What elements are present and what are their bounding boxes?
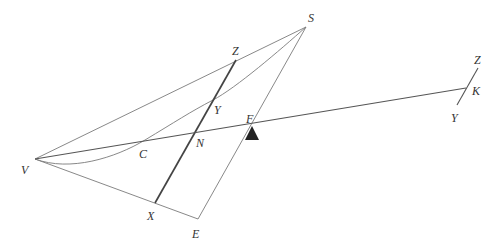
label-z: Z: [232, 44, 239, 58]
label-k: K: [471, 84, 481, 98]
label-f: F: [245, 112, 254, 126]
label-v: V: [21, 163, 30, 177]
label-z-right: Z: [474, 53, 481, 67]
label-y-right: Y: [451, 111, 459, 125]
label-y: Y: [214, 103, 222, 117]
curve-vcys: [35, 27, 306, 164]
label-e: E: [191, 227, 200, 241]
line-zx: [155, 60, 236, 203]
line-ve: [35, 159, 198, 219]
fulcrum-marker: [245, 126, 259, 140]
label-c: C: [139, 147, 148, 161]
label-x: X: [146, 209, 155, 223]
diagram-canvas: S Z Y F C N V X E Z K Y: [0, 0, 502, 249]
line-vs: [35, 27, 306, 159]
label-n: N: [195, 136, 205, 150]
label-s: S: [308, 11, 314, 25]
